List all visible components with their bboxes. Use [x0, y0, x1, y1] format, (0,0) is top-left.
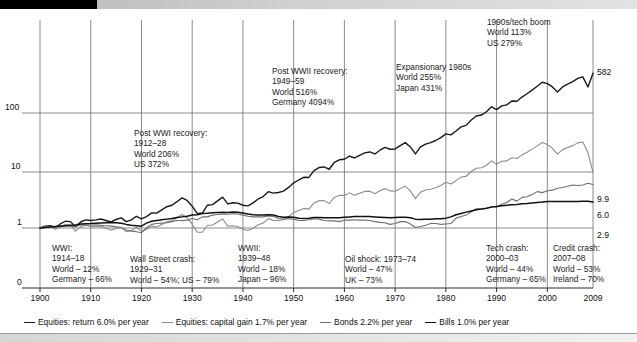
x-axis-tick-label: 2000 [527, 293, 567, 303]
series-line-3 [40, 183, 593, 233]
annotation-line: Tech crash: [486, 243, 546, 253]
annotation-wall-street-crash: Wall Street crash:1929–31World – 54%; US… [130, 254, 219, 285]
annotation-line: Japan 431% [396, 83, 471, 93]
annotation-line: Japan – 96% [238, 274, 286, 284]
annotation-line: 1929–31 [130, 264, 219, 274]
annotation-line: World 255% [396, 72, 471, 82]
annotation-line: WWII: [238, 243, 286, 253]
annotation-post-wwii-recovery: Post WWII recovery:1949–59World 516%Germ… [272, 66, 348, 108]
annotation-line: 1939–48 [238, 253, 286, 263]
annotation-line: Post WWI recovery: [134, 128, 207, 138]
annotation-line: Expansionary 1980s [396, 62, 471, 72]
annotation-wwii: WWII:1939–48World – 18%Japan – 96% [238, 243, 286, 285]
annotation-line: 1914–18 [52, 253, 112, 263]
x-axis-tick-label: 1950 [274, 293, 314, 303]
legend-label: Equities: capital gain 1.7% per year [176, 317, 307, 327]
annotation-line: Germany – 65% [486, 274, 546, 284]
annotation-line: Germany – 66% [52, 274, 112, 284]
annotation-line: World – 44% [486, 264, 546, 274]
annotation-line: Credit crash: [553, 243, 604, 253]
legend-swatch-icon [162, 322, 173, 323]
chart-legend: Equities: return 6.0% per yearEquities: … [24, 317, 624, 327]
x-axis-tick-label: 1990 [477, 293, 517, 303]
annotation-line: World – 53% [553, 264, 604, 274]
annotation-tech-boom-1990s: 1990s/tech boomWorld 113%US 279% [487, 17, 551, 48]
series-line-4 [40, 201, 593, 228]
legend-item-4: Bills 1.0% per year [425, 317, 509, 327]
end-value-label-equities-capital-gain: 9.9 [597, 194, 609, 204]
legend-label: Bonds 2.2% per year [334, 317, 412, 327]
legend-swatch-icon [24, 322, 35, 323]
end-value-label-bills: 2.9 [597, 230, 609, 240]
legend-label: Equities: return 6.0% per year [38, 317, 149, 327]
annotation-line: Ireland – 70% [553, 274, 604, 284]
x-axis-tick-label: 1980 [426, 293, 466, 303]
annotation-line: WWI: [52, 243, 112, 253]
annotation-line: World – 47% [345, 264, 416, 274]
x-axis-tick-label: 1930 [172, 293, 212, 303]
annotation-line: World – 12% [52, 264, 112, 274]
annotation-line: 1949–59 [272, 76, 348, 86]
annotation-line: Oil shock: 1973–74 [345, 254, 416, 264]
annotation-oil-shock: Oil shock: 1973–74World – 47%UK – 73% [345, 254, 416, 285]
legend-swatch-icon [425, 322, 436, 323]
x-axis-tick-label: 1970 [375, 293, 415, 303]
annotation-line: US 279% [487, 38, 551, 48]
annotation-credit-crash: Credit crash:2007–08World – 53%Ireland –… [553, 243, 604, 285]
x-axis-tick-label: 1960 [324, 293, 364, 303]
legend-label: Bills 1.0% per year [439, 317, 509, 327]
annotation-line: US 372% [134, 159, 207, 169]
annotation-line: World – 18% [238, 264, 286, 274]
annotation-line: 2000–03 [486, 253, 546, 263]
annotation-line: World 516% [272, 87, 348, 97]
annotation-line: Germany 4094% [272, 97, 348, 107]
annotation-line: Post WWII recovery: [272, 66, 348, 76]
legend-item-1: Equities: return 6.0% per year [24, 317, 149, 327]
x-axis-tick-label: 1920 [121, 293, 161, 303]
y-axis-tick-label: 100 [5, 102, 19, 112]
end-value-label-bonds: 6.0 [597, 210, 609, 220]
legend-item-3: Bonds 2.2% per year [320, 317, 412, 327]
y-axis-tick-label: 10 [11, 161, 21, 171]
annotation-tech-crash: Tech crash:2000–03World – 44%Germany – 6… [486, 243, 546, 285]
annotation-wwi: WWI:1914–18World – 12%Germany – 66% [52, 243, 112, 285]
annotation-post-wwi-recovery: Post WWI recovery:1912–28World 206%US 37… [134, 128, 207, 170]
annotation-line: UK – 73% [345, 275, 416, 285]
x-axis-tick-label: 1940 [223, 293, 263, 303]
annotation-line: 2007–08 [553, 253, 604, 263]
annotation-expansionary-1980s: Expansionary 1980sWorld 255%Japan 431% [396, 62, 471, 93]
annotation-line: 1990s/tech boom [487, 17, 551, 27]
legend-item-2: Equities: capital gain 1.7% per year [162, 317, 307, 327]
x-axis-tick-label: 1900 [20, 293, 60, 303]
x-axis-tick-label: 1910 [71, 293, 111, 303]
y-axis-tick-label: 0 [17, 277, 22, 287]
x-axis-tick-label: 2009 [573, 293, 613, 303]
y-axis-tick-label: 1 [17, 217, 22, 227]
annotation-line: World 206% [134, 149, 207, 159]
annotation-line: World 113% [487, 27, 551, 37]
bottom-decoration-band [0, 333, 637, 342]
annotation-line: Wall Street crash: [130, 254, 219, 264]
annotation-line: World – 54%; US – 79% [130, 275, 219, 285]
legend-swatch-icon [320, 322, 331, 323]
annotation-line: 1912–28 [134, 138, 207, 148]
end-value-label-equities-return: 582 [597, 67, 611, 77]
